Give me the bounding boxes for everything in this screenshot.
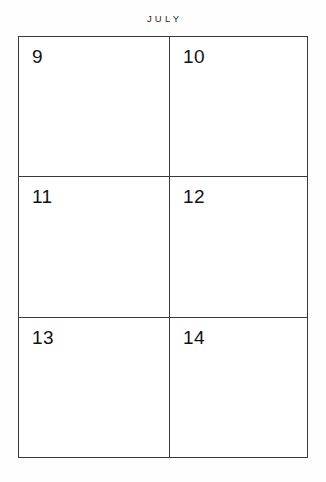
day-number: 13 [32, 327, 54, 349]
calendar-grid: 9 10 11 12 13 14 [18, 36, 308, 458]
day-number: 10 [183, 46, 205, 68]
day-cell-12[interactable]: 12 [170, 177, 307, 318]
day-cell-9[interactable]: 9 [19, 37, 170, 177]
day-number: 14 [183, 327, 205, 349]
day-cell-14[interactable]: 14 [170, 318, 307, 457]
calendar-page: JULY 9 10 11 12 13 14 [0, 0, 326, 482]
day-number: 11 [32, 186, 53, 208]
day-cell-11[interactable]: 11 [19, 177, 170, 318]
month-header: JULY [0, 13, 326, 25]
day-cell-13[interactable]: 13 [19, 318, 170, 457]
day-number: 9 [32, 46, 43, 68]
day-cell-10[interactable]: 10 [170, 37, 307, 177]
day-number: 12 [183, 186, 205, 208]
